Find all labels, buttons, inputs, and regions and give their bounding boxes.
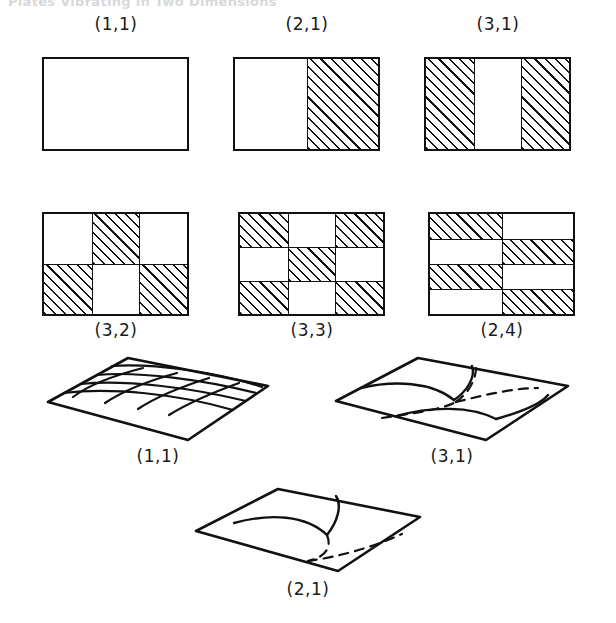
plan-cell bbox=[426, 59, 474, 149]
plate-figure-2-1 bbox=[196, 487, 420, 573]
plan-cell bbox=[240, 214, 288, 247]
plan-cell bbox=[44, 59, 187, 149]
plan-cell bbox=[44, 264, 92, 314]
plate-outline bbox=[196, 489, 420, 571]
plan-label-3-1: (3,1) bbox=[477, 14, 520, 34]
plan-cell bbox=[502, 214, 574, 239]
plan-cell bbox=[307, 59, 379, 149]
plan-cell bbox=[92, 214, 140, 264]
plan-cell bbox=[335, 281, 383, 314]
plan-cell bbox=[44, 214, 92, 264]
plan-cell bbox=[430, 289, 502, 314]
plan-cell bbox=[288, 281, 336, 314]
plan-figure-3-3 bbox=[238, 212, 385, 316]
plan-label-2-4: (2,4) bbox=[481, 320, 524, 340]
plate-mesh-svg bbox=[48, 356, 268, 442]
plan-cell bbox=[502, 264, 574, 289]
plan-label-3-3: (3,3) bbox=[291, 320, 334, 340]
plan-cell bbox=[139, 214, 187, 264]
plan-figure-3-1 bbox=[424, 57, 571, 151]
plan-cell bbox=[92, 264, 140, 314]
plate-nodal-line-solid bbox=[234, 496, 339, 535]
plan-label-1-1: (1,1) bbox=[95, 14, 138, 34]
plan-cell bbox=[335, 247, 383, 280]
plan-figure-2-4 bbox=[428, 212, 575, 316]
plan-figure-1-1 bbox=[42, 57, 189, 151]
plan-cell bbox=[502, 289, 574, 314]
plan-figure-2-1 bbox=[233, 57, 380, 151]
plate-label-3-1: (3,1) bbox=[431, 446, 474, 466]
plan-cell bbox=[235, 59, 307, 149]
plan-cell bbox=[430, 214, 502, 239]
plate-label-1-1: (1,1) bbox=[137, 446, 180, 466]
page-header-text: Plates Vibrating in Two Dimensions bbox=[8, 0, 277, 9]
plan-figure-3-2 bbox=[42, 212, 189, 316]
plan-cell bbox=[430, 264, 502, 289]
figure-canvas: Plates Vibrating in Two Dimensions (1,1)… bbox=[0, 0, 616, 623]
plan-cell bbox=[430, 239, 502, 264]
plate-grid-lines-u bbox=[64, 365, 262, 410]
plan-label-3-2: (3,2) bbox=[95, 320, 138, 340]
plan-cell bbox=[502, 239, 574, 264]
plate-figure-3-1 bbox=[336, 356, 568, 442]
plate-figure-1-1 bbox=[48, 356, 268, 442]
plan-cell bbox=[521, 59, 569, 149]
plan-label-2-1: (2,1) bbox=[286, 14, 329, 34]
plate-label-2-1: (2,1) bbox=[287, 579, 330, 599]
plate-nodal21-svg bbox=[196, 487, 420, 573]
plan-cell bbox=[335, 214, 383, 247]
plate-nodal31-svg bbox=[336, 356, 568, 442]
plan-cell bbox=[139, 264, 187, 314]
plan-cell bbox=[474, 59, 522, 149]
plan-cell bbox=[288, 247, 336, 280]
plan-cell bbox=[240, 247, 288, 280]
plan-cell bbox=[240, 281, 288, 314]
plan-cell bbox=[288, 214, 336, 247]
